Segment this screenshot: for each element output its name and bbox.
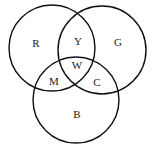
circle-green xyxy=(58,6,146,94)
label-w: W xyxy=(72,59,83,71)
venn-diagram: R Y G W M C B xyxy=(0,0,153,148)
label-g: G xyxy=(114,36,122,48)
label-m: M xyxy=(49,75,59,87)
label-c: C xyxy=(93,76,100,88)
label-b: B xyxy=(73,108,80,120)
label-r: R xyxy=(32,37,40,49)
label-y: Y xyxy=(74,35,82,47)
